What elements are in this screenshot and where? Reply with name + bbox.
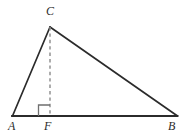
vertex-label-f: F	[44, 120, 51, 132]
vertex-label-a: A	[8, 120, 15, 132]
segment-cb	[50, 27, 178, 116]
right-angle-marker	[39, 105, 51, 116]
vertex-label-b: B	[168, 120, 175, 132]
vertex-label-c: C	[46, 5, 54, 17]
triangle-diagram-svg	[0, 0, 192, 137]
segment-ac	[13, 27, 51, 116]
geometry-figure: A F B C	[0, 0, 192, 137]
